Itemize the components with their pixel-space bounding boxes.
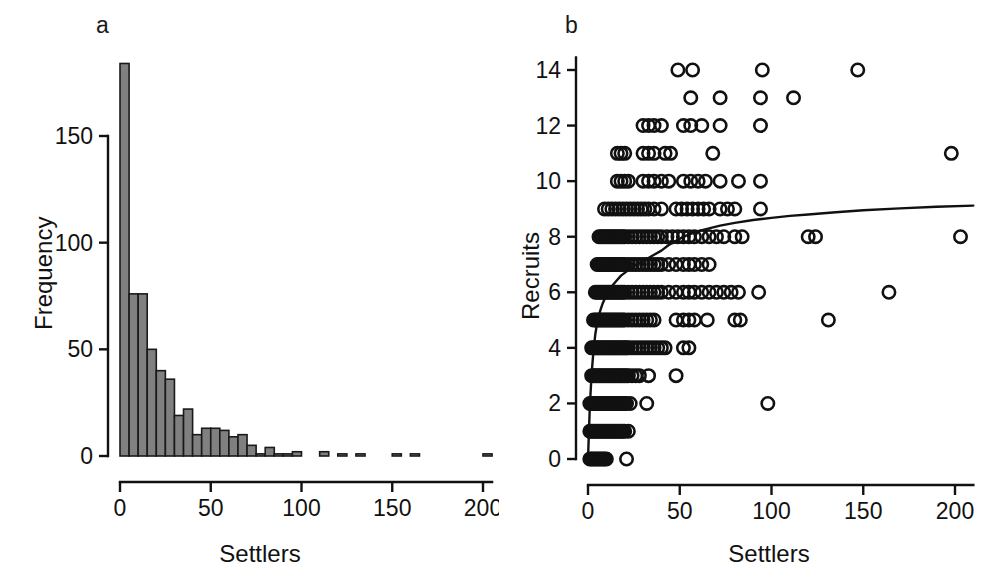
histogram-bar xyxy=(156,371,165,456)
scatter-point xyxy=(852,64,864,76)
panel-b-y-tick-label: 4 xyxy=(548,335,561,361)
scatter-point xyxy=(686,64,698,76)
scatter-point xyxy=(672,64,684,76)
figure-root: a 050100150050100150200 Frequency Settle… xyxy=(0,0,998,584)
panel-b-y-tick-label: 10 xyxy=(535,168,561,194)
histogram-bar xyxy=(265,447,274,456)
scatter-point xyxy=(954,231,966,243)
scatter-point xyxy=(822,314,834,326)
panel-a-x-tick-label: 150 xyxy=(373,495,411,521)
histogram-bar xyxy=(165,379,174,456)
panel-b-y-tick-label: 8 xyxy=(548,224,561,250)
panel-b-y-tick-label: 0 xyxy=(548,446,561,472)
panel-a-x-tick-label: 50 xyxy=(198,495,224,521)
histogram-bar xyxy=(129,294,138,456)
scatter-point xyxy=(732,175,744,187)
histogram-bar xyxy=(138,294,147,456)
histogram-bar xyxy=(292,452,301,456)
panel-a-canvas: 050100150050100150200 xyxy=(55,63,499,521)
panel-a-x-tick-label: 100 xyxy=(282,495,320,521)
panel-b-x-tick-label: 50 xyxy=(667,498,693,524)
scatter-point xyxy=(642,369,654,381)
panel-a-y-tick-label: 150 xyxy=(55,123,93,149)
histogram-bar xyxy=(392,454,401,456)
panel-a-y-tick-label: 50 xyxy=(67,336,93,362)
panel-b-scatter: b 02468101214050100150200 Recruits Settl… xyxy=(499,0,998,584)
panel-a-x-tick-label: 0 xyxy=(114,495,127,521)
histogram-bar xyxy=(202,428,211,456)
panel-b-canvas: 02468101214050100150200 xyxy=(535,57,974,524)
histogram-bar xyxy=(247,445,256,456)
scatter-point xyxy=(714,92,726,104)
scatter-point xyxy=(685,92,697,104)
panel-a-plot: 050100150050100150200 xyxy=(0,0,499,584)
scatter-point xyxy=(754,119,766,131)
panel-a-y-axis-title: Frequency xyxy=(30,217,58,330)
histogram-bar xyxy=(238,435,247,456)
scatter-point xyxy=(754,203,766,215)
histogram-bar xyxy=(193,435,202,456)
scatter-point xyxy=(714,119,726,131)
histogram-bar xyxy=(320,452,329,456)
histogram-bar xyxy=(120,63,129,456)
scatter-point xyxy=(762,397,774,409)
panel-a-histogram: a 050100150050100150200 Frequency Settle… xyxy=(0,0,499,584)
histogram-bar xyxy=(483,454,492,456)
scatter-point xyxy=(883,286,895,298)
histogram-bar xyxy=(338,454,347,456)
panel-b-x-axis-title: Settlers xyxy=(689,540,849,568)
panel-b-x-tick-label: 0 xyxy=(582,498,595,524)
scatter-points xyxy=(584,64,967,465)
panel-b-y-tick-label: 2 xyxy=(548,390,561,416)
panel-b-plot: 02468101214050100150200 xyxy=(499,0,998,584)
histogram-bars xyxy=(120,63,492,456)
scatter-point xyxy=(787,92,799,104)
histogram-bar xyxy=(147,349,156,456)
scatter-point xyxy=(756,64,768,76)
histogram-bar xyxy=(410,454,419,456)
histogram-bar xyxy=(229,437,238,456)
scatter-point xyxy=(754,92,766,104)
panel-a-x-tick-label: 200 xyxy=(464,495,499,521)
panel-b-y-axis-title: Recruits xyxy=(517,232,545,320)
panel-a-x-axis-title: Settlers xyxy=(180,540,340,568)
scatter-point xyxy=(752,286,764,298)
histogram-bar xyxy=(274,454,283,456)
scatter-point xyxy=(945,147,957,159)
scatter-point xyxy=(701,314,713,326)
panel-b-x-tick-label: 100 xyxy=(752,498,790,524)
panel-b-y-tick-label: 14 xyxy=(535,57,561,83)
histogram-bar xyxy=(283,454,292,456)
panel-a-y-tick-label: 100 xyxy=(55,230,93,256)
panel-a-y-tick-label: 0 xyxy=(80,443,93,469)
histogram-bar xyxy=(174,415,183,456)
histogram-bar xyxy=(356,454,365,456)
scatter-point xyxy=(707,147,719,159)
panel-b-x-tick-label: 200 xyxy=(936,498,974,524)
histogram-bar xyxy=(184,409,193,456)
histogram-bar xyxy=(220,430,229,456)
panel-b-y-tick-label: 12 xyxy=(535,113,561,139)
scatter-point xyxy=(641,397,653,409)
panel-b-x-tick-label: 150 xyxy=(844,498,882,524)
scatter-point xyxy=(754,175,766,187)
histogram-bar xyxy=(256,454,265,456)
panel-b-y-tick-label: 6 xyxy=(548,279,561,305)
histogram-bar xyxy=(211,428,220,456)
scatter-point xyxy=(670,369,682,381)
scatter-point xyxy=(714,175,726,187)
scatter-point xyxy=(620,453,632,465)
